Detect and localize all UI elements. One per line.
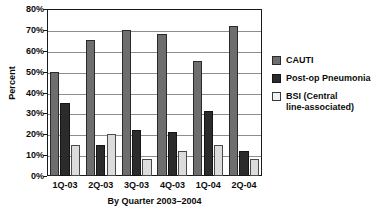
- chart-legend: CAUTIPost-op PneumoniaBSI (Centralline-a…: [272, 55, 372, 120]
- bar: [96, 145, 105, 176]
- y-tick-label: 40%: [4, 88, 44, 98]
- bar: [250, 159, 259, 176]
- bar: [122, 30, 131, 176]
- bar-group: [47, 9, 83, 176]
- y-tick-label: 10%: [4, 150, 44, 160]
- y-tick-label: 20%: [4, 129, 44, 139]
- bar: [229, 26, 238, 176]
- bar-group: [226, 9, 262, 176]
- bar: [214, 145, 223, 176]
- bar: [239, 151, 248, 176]
- legend-label: CAUTI: [286, 55, 314, 66]
- y-tick-label: 50%: [4, 67, 44, 77]
- bar-group: [119, 9, 155, 176]
- legend-item: CAUTI: [272, 55, 372, 66]
- y-tick-label: 70%: [4, 25, 44, 35]
- bar: [60, 103, 69, 176]
- bar: [193, 61, 202, 176]
- x-axis-title: By Quarter 2003–2004: [47, 196, 262, 206]
- y-tick-label: 0%: [4, 171, 44, 181]
- y-tick-label: 80%: [4, 4, 44, 14]
- bar: [157, 34, 166, 176]
- bar: [168, 132, 177, 176]
- y-tick-label: 30%: [4, 108, 44, 118]
- bar: [107, 134, 116, 176]
- bar: [86, 40, 95, 176]
- bar: [132, 130, 141, 176]
- legend-swatch-icon: [272, 56, 281, 65]
- y-tick-mark: [43, 176, 47, 177]
- y-tick-label: 60%: [4, 46, 44, 56]
- bars-layer: [47, 9, 262, 176]
- legend-swatch-icon: [272, 92, 281, 101]
- bar: [204, 111, 213, 176]
- x-tick-label: 2Q-04: [221, 180, 267, 190]
- bar-group: [83, 9, 119, 176]
- legend-item: BSI (Centralline-associated): [272, 91, 372, 113]
- bar: [142, 159, 151, 176]
- bar: [71, 145, 80, 176]
- bar-group: [190, 9, 226, 176]
- legend-item: Post-op Pneumonia: [272, 73, 372, 84]
- bar: [178, 151, 187, 176]
- legend-label: Post-op Pneumonia: [286, 73, 371, 84]
- legend-swatch-icon: [272, 74, 281, 83]
- bar-chart: Percent 0%10%20%30%40%50%60%70%80% 1Q-03…: [0, 0, 372, 212]
- legend-label: BSI (Centralline-associated): [286, 91, 354, 113]
- bar: [50, 72, 59, 176]
- bar-group: [155, 9, 191, 176]
